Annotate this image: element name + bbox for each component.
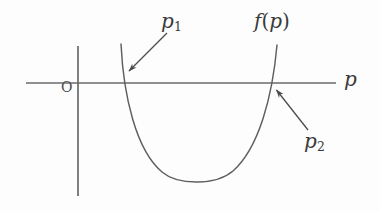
label-f-arg: p xyxy=(269,9,282,33)
p2-arrow xyxy=(277,90,309,130)
label-origin: O xyxy=(61,80,72,94)
figure-container: p1 f(p) p2 p O xyxy=(0,0,380,212)
label-p1: p1 xyxy=(161,11,182,31)
label-p1-base: p xyxy=(161,9,174,33)
label-f-close-paren: ) xyxy=(282,9,290,33)
label-p2-base: p xyxy=(304,129,317,153)
label-p2-subscript: 2 xyxy=(317,139,325,154)
p1-arrow xyxy=(129,33,167,71)
figure-canvas xyxy=(0,0,380,212)
label-axis-p: p xyxy=(344,69,357,89)
label-f-of-p: f(p) xyxy=(254,11,290,31)
label-p1-subscript: 1 xyxy=(174,19,182,34)
label-p2: p2 xyxy=(304,131,325,151)
parabola-curve xyxy=(121,44,277,182)
